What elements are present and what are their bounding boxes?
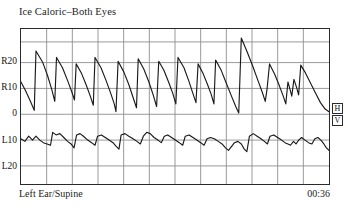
channel-badge-horizontal[interactable]: H [332, 103, 343, 114]
trace-h [21, 38, 329, 113]
elapsed-time-label: 00:36 [307, 188, 330, 199]
trace-v [21, 132, 329, 151]
plot-area [20, 28, 330, 185]
page-title: Ice Caloric–Both Eyes [19, 6, 116, 17]
chart-traces [21, 29, 329, 184]
y-axis-tick-l20: L20 [0, 162, 17, 172]
eng-chart-root: Ice Caloric–Both Eyes R20R100L10L20 H V … [0, 0, 348, 217]
test-condition-label: Left Ear/Supine [19, 188, 83, 199]
channel-badge-vertical[interactable]: V [332, 115, 343, 126]
y-axis-tick-r20: R20 [0, 57, 17, 67]
y-axis-tick-r10: R10 [0, 83, 17, 93]
y-axis-tick-l10: L10 [0, 136, 17, 146]
y-axis-tick-0: 0 [0, 110, 17, 120]
